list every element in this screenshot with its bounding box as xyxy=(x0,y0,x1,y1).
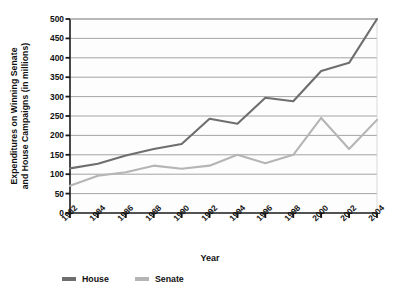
x-tick-label-2002: 2002 xyxy=(338,203,358,223)
x-tick-label-1998: 1998 xyxy=(282,203,302,223)
x-axis-title: Year xyxy=(0,253,393,263)
x-tick-label-1996: 1996 xyxy=(254,203,274,223)
x-tick-label-1984: 1984 xyxy=(87,203,107,223)
x-tick-label-1992: 1992 xyxy=(199,203,219,223)
x-tick-label-1990: 1990 xyxy=(171,203,191,223)
legend-swatch-house xyxy=(62,277,76,281)
legend-label-house: House xyxy=(82,274,109,284)
x-tick-label-1988: 1988 xyxy=(143,203,163,223)
x-tick-label-2000: 2000 xyxy=(310,203,330,223)
x-tick-label-1982: 1982 xyxy=(59,203,79,223)
legend-item-house[interactable]: House xyxy=(62,274,109,284)
x-tick-label-2004: 2004 xyxy=(366,203,386,223)
legend-swatch-senate xyxy=(135,277,149,281)
x-tick-label-1994: 1994 xyxy=(227,203,247,223)
legend-item-senate[interactable]: Senate xyxy=(135,274,184,284)
chart-legend: House Senate xyxy=(62,274,184,284)
line-chart-figure: Expenditures on Winning Senate and House… xyxy=(0,0,393,299)
x-tick-label-1986: 1986 xyxy=(115,203,135,223)
legend-label-senate: Senate xyxy=(155,274,184,284)
